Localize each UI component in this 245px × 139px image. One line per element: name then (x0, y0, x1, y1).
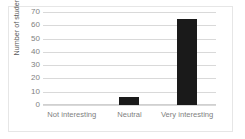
bar[interactable] (119, 97, 139, 105)
y-tick-label: 20 (20, 74, 40, 82)
y-axis-tick-labels: 010203040506070 (20, 6, 40, 106)
y-tick-label: 50 (20, 35, 40, 43)
x-axis-tick-labels: Not interestingNeutralVery interesting (43, 110, 216, 120)
bar-chart: Number of students 010203040506070 Not i… (0, 0, 245, 139)
y-tick-label: 40 (20, 48, 40, 56)
bar[interactable] (177, 19, 197, 105)
bar-slot (43, 12, 101, 105)
x-tick-label: Very interesting (158, 110, 216, 120)
bar-slot (101, 12, 159, 105)
plot-area (43, 12, 216, 105)
x-tick-label: Not interesting (43, 110, 101, 120)
y-tick-label: 70 (20, 8, 40, 16)
y-tick-label: 60 (20, 21, 40, 29)
bars-container (43, 12, 216, 105)
y-tick-label: 10 (20, 88, 40, 96)
bar-slot (158, 12, 216, 105)
y-tick-label: 30 (20, 61, 40, 69)
x-tick-label: Neutral (101, 110, 159, 120)
y-tick-label: 0 (20, 101, 40, 109)
gridline (43, 105, 216, 106)
